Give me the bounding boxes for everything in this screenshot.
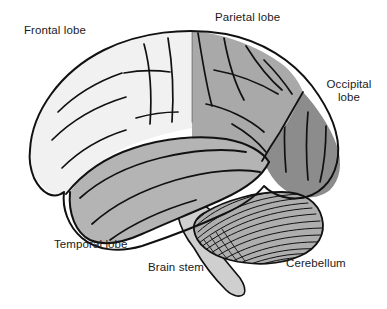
label-occipital-lobe-line2: lobe <box>318 91 380 105</box>
label-temporal-lobe: Temporal lobe <box>54 238 128 252</box>
label-frontal-lobe: Frontal lobe <box>24 24 86 38</box>
label-parietal-lobe: Parietal lobe <box>215 11 280 25</box>
brain-diagram: Frontal lobe Parietal lobe Occipital lob… <box>0 0 387 309</box>
label-brain-stem: Brain stem <box>148 261 204 275</box>
label-cerebellum: Cerebellum <box>286 257 346 271</box>
label-occipital-lobe-line1: Occipital <box>318 78 380 92</box>
